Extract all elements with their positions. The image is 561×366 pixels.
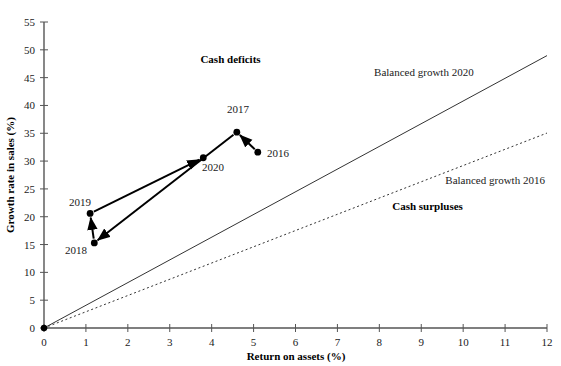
- y-tick-label-30: 30: [24, 155, 36, 167]
- cash-flow-scatter-chart: 0123456789101112 0510152025303540455055 …: [0, 0, 561, 366]
- annotation-cash-deficits: Cash deficits: [200, 53, 261, 65]
- y-tick-label-20: 20: [24, 211, 36, 223]
- y-tick-label-50: 50: [24, 44, 36, 56]
- x-tick-label-0: 0: [41, 336, 47, 348]
- label-2020: 2020: [202, 161, 225, 173]
- y-tick-label-5: 5: [30, 294, 36, 306]
- y-tick-label-45: 45: [24, 72, 36, 84]
- y-tick-label-40: 40: [24, 99, 36, 111]
- annotation-balanced-growth-2020-label: Balanced growth 2020: [374, 66, 474, 78]
- x-axis-title: Return on assets (%): [247, 350, 346, 363]
- data-point-2017[interactable]: [233, 129, 240, 136]
- data-point-2018[interactable]: [91, 239, 98, 246]
- x-tick-label-12: 12: [542, 336, 553, 348]
- x-tick-label-11: 11: [500, 336, 511, 348]
- y-tick-label-25: 25: [24, 183, 36, 195]
- x-tick-label-1: 1: [83, 336, 89, 348]
- chart-container: 0123456789101112 0510152025303540455055 …: [0, 0, 561, 366]
- x-tick-label-4: 4: [209, 336, 215, 348]
- x-tick-label-10: 10: [458, 336, 470, 348]
- x-tick-label-9: 9: [419, 336, 425, 348]
- y-tick-label-0: 0: [30, 322, 36, 334]
- y-tick-label-35: 35: [24, 127, 36, 139]
- origin-point: [41, 325, 47, 331]
- y-axis-title: Growth rate in sales (%): [4, 117, 17, 233]
- x-tick-label-5: 5: [251, 336, 257, 348]
- x-tick-label-2: 2: [125, 336, 131, 348]
- data-point-2016[interactable]: [254, 149, 261, 156]
- y-tick-label-15: 15: [24, 239, 36, 251]
- label-2019: 2019: [69, 196, 92, 208]
- label-2017: 2017: [227, 103, 250, 115]
- y-tick-label-10: 10: [24, 266, 36, 278]
- x-tick-label-6: 6: [293, 336, 299, 348]
- x-tick-label-7: 7: [335, 336, 341, 348]
- label-2018: 2018: [65, 244, 88, 256]
- annotation-balanced-growth-2016-label: Balanced growth 2016: [445, 174, 545, 186]
- label-2016: 2016: [267, 147, 290, 159]
- data-point-2019[interactable]: [87, 210, 94, 217]
- y-tick-label-55: 55: [24, 16, 36, 28]
- x-tick-label-8: 8: [377, 336, 383, 348]
- annotation-cash-surpluses: Cash surpluses: [392, 200, 463, 212]
- x-tick-label-3: 3: [167, 336, 173, 348]
